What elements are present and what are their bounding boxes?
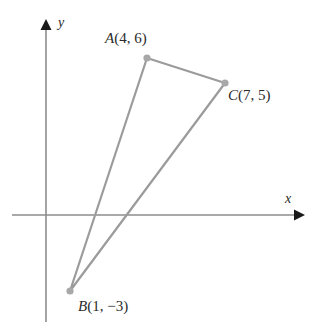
vertex-label-c: C(7, 5) <box>228 88 271 103</box>
geometry-figure: A(4, 6) C(7, 5) B(1, −3) x y <box>0 0 320 332</box>
triangle-abc <box>70 58 225 291</box>
vertex-coords-c: (7, 5) <box>238 87 271 103</box>
vertex-dot-a <box>143 54 150 61</box>
figure-canvas <box>0 0 320 332</box>
vertex-dot-c <box>221 79 228 86</box>
y-axis-arrowhead <box>41 19 52 30</box>
vertex-label-a: A(4, 6) <box>105 31 147 46</box>
vertex-letter-b: B <box>78 298 87 314</box>
x-axis-arrowhead <box>294 210 305 221</box>
vertex-label-b: B(1, −3) <box>78 299 128 314</box>
vertex-letter-a: A <box>105 30 114 46</box>
vertex-coords-a: (4, 6) <box>114 30 147 46</box>
y-axis-label: y <box>58 16 64 30</box>
x-axis-label: x <box>285 192 291 206</box>
vertex-letter-c: C <box>228 87 238 103</box>
vertex-coords-b: (1, −3) <box>87 298 128 314</box>
vertex-dot-b <box>66 287 73 294</box>
